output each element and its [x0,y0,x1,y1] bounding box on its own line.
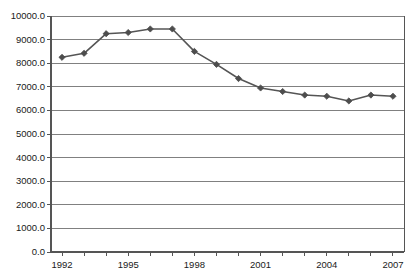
x-axis-tick-label: 2004 [307,260,347,270]
y-axis-tick-label: 7000.0 [1,82,45,92]
line-chart: 0.01000.02000.03000.04000.05000.06000.07… [0,0,411,280]
y-axis-tick-label: 1000.0 [1,223,45,233]
y-axis-tick-label: 9000.0 [1,35,45,45]
y-axis-tick-label: 10000.0 [1,11,45,21]
data-point-marker [346,98,352,104]
data-point-marker [257,85,263,91]
data-point-marker [280,88,286,94]
y-axis-tick-label: 2000.0 [1,200,45,210]
y-axis-tick-label: 0.0 [1,247,45,257]
x-axis-tick-label: 2007 [373,260,411,270]
data-point-marker [390,93,396,99]
chart-plot-area [0,0,411,280]
x-axis-tick-label: 1998 [174,260,214,270]
data-point-marker [302,92,308,98]
data-point-marker [324,93,330,99]
x-axis-tick-label: 1992 [42,260,82,270]
y-axis-tick-label: 8000.0 [1,58,45,68]
data-point-marker [147,26,153,32]
y-axis-tick-label: 4000.0 [1,153,45,163]
x-axis-tick-label: 2001 [241,260,281,270]
y-axis-tick-label: 6000.0 [1,105,45,115]
y-axis-tick-label: 5000.0 [1,129,45,139]
y-axis-tick-label: 3000.0 [1,176,45,186]
data-point-marker [368,92,374,98]
data-point-marker [59,54,65,60]
data-point-marker [125,29,131,35]
x-axis-tick-label: 1995 [108,260,148,270]
